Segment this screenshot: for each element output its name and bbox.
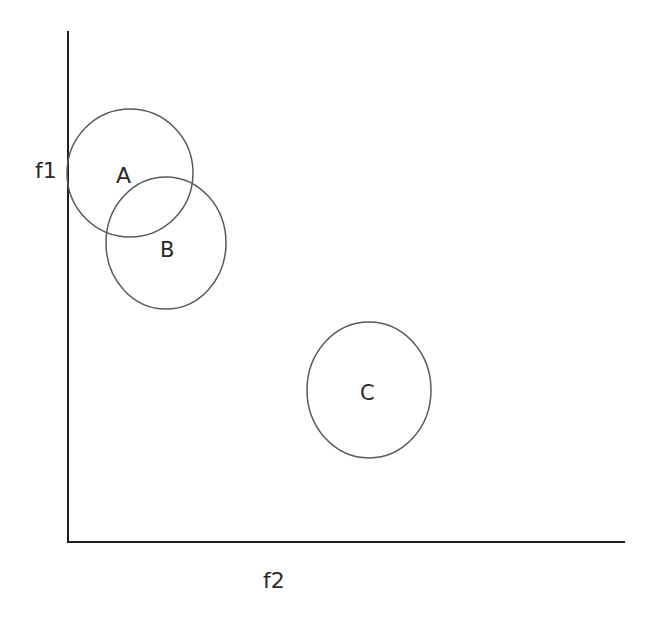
cluster-b: B (106, 177, 226, 309)
cluster-c: C (307, 322, 431, 458)
x-axis-label: f2 (263, 568, 285, 593)
cluster-a: A (67, 109, 193, 237)
y-axis-label: f1 (35, 158, 57, 183)
cluster-diagram: f1 f2 A B C (0, 0, 656, 622)
cluster-c-label: C (360, 381, 375, 405)
cluster-a-label: A (116, 163, 131, 188)
cluster-b-label: B (160, 238, 174, 262)
